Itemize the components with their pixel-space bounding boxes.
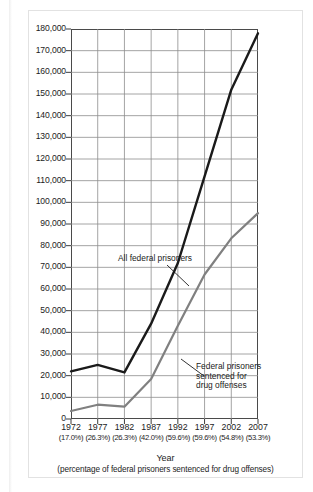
x-axis-labels: 1972(17.0%)1977(26.3%)1982(26.3%)1987(42… bbox=[55, 422, 280, 456]
annotation-drug-line-3: drug offenses bbox=[196, 381, 261, 391]
figure-root: 180,000170,000160,000150,000140,000130,0… bbox=[0, 0, 313, 492]
series-line-all-federal-prisoners bbox=[71, 33, 258, 372]
x-axis-percent-label: (53.3%) bbox=[237, 433, 279, 443]
annotation-drug-offense-prisoners: Federal prisoners sentenced for drug off… bbox=[196, 362, 261, 391]
x-axis-tick-group: 2007(53.3%) bbox=[237, 422, 279, 443]
x-axis-subtitle: (percentage of federal prisoners sentenc… bbox=[28, 464, 303, 476]
annotation-all-federal-prisoners: All federal prisoners bbox=[118, 254, 192, 264]
x-axis-year-label: 2007 bbox=[237, 422, 279, 433]
x-axis-caption: Year (percentage of federal prisoners se… bbox=[28, 452, 303, 476]
annotation-all-federal-prisoners-text: All federal prisoners bbox=[118, 254, 192, 264]
x-axis-title: Year bbox=[28, 452, 303, 464]
